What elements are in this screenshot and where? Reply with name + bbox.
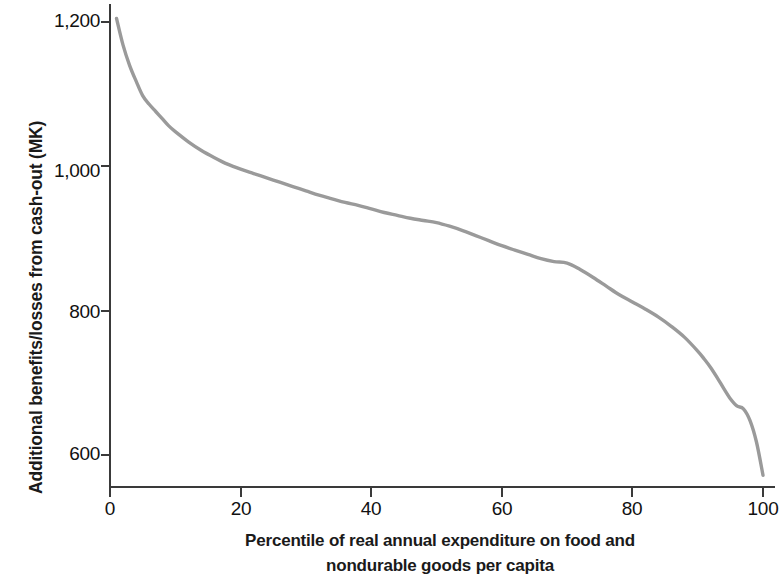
x-tick-label-80: 80 [592, 498, 672, 520]
x-axis-label-line-1: Percentile of real annual expenditure on… [110, 528, 770, 553]
x-tick-label-60: 60 [462, 498, 542, 520]
plot-area [0, 0, 779, 500]
x-tick-label-20: 20 [201, 498, 281, 520]
x-axis-label-line-2: nondurable goods per capita [110, 553, 770, 578]
x-tick-label-0: 0 [70, 498, 150, 520]
chart-figure: Additional benefits/losses from cash-out… [0, 0, 779, 587]
x-axis-label: Percentile of real annual expenditure on… [110, 528, 770, 578]
data-series-line [117, 18, 763, 475]
x-tick-label-100: 100 [723, 498, 779, 520]
x-tick-label-40: 40 [331, 498, 411, 520]
